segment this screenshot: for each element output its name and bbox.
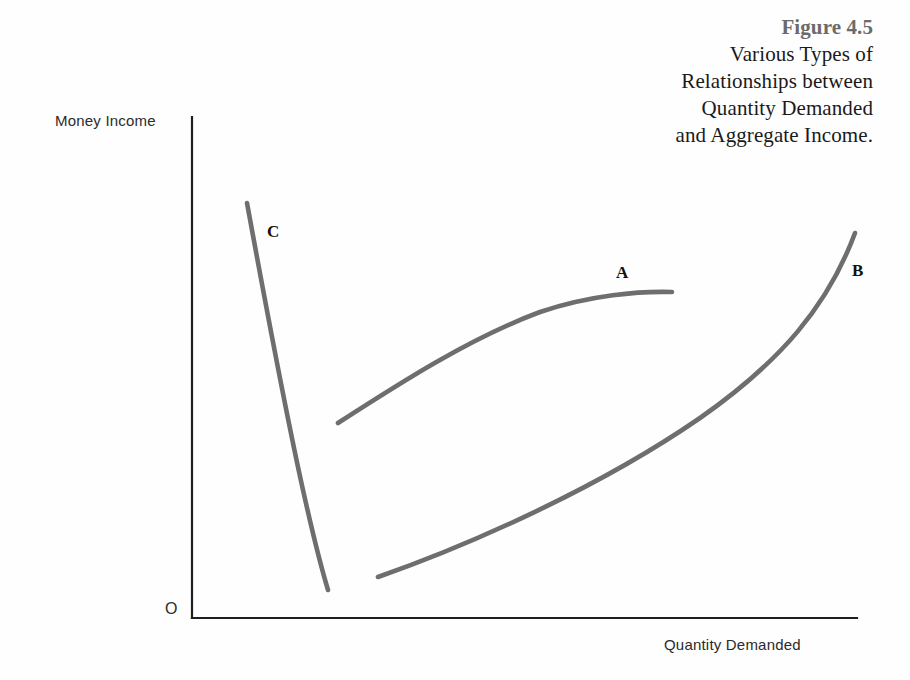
curve-c: [247, 203, 328, 590]
curve-label-c: C: [267, 222, 279, 242]
plot-area: [0, 0, 910, 680]
curve-a: [338, 292, 672, 423]
curve-label-a: A: [616, 263, 628, 283]
curve-label-b: B: [852, 261, 863, 281]
figure-container: Figure 4.5 Various Types of Relationship…: [0, 0, 910, 680]
x-axis-label: Quantity Demanded: [664, 636, 801, 653]
curve-b: [378, 233, 855, 577]
origin-label: O: [165, 600, 177, 618]
y-axis-label: Money Income: [55, 112, 156, 129]
